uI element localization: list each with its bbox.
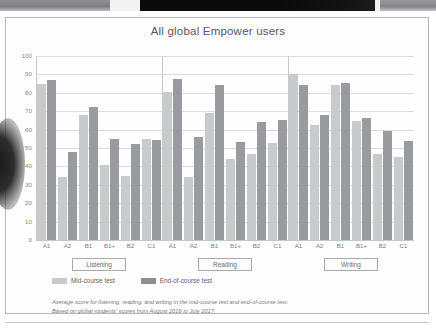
x-axis-tick-reading-b1: B1 <box>211 242 219 249</box>
x-axis-tick-listening-b2: B2 <box>127 242 135 249</box>
bar-writing-b2-end <box>383 131 392 240</box>
y-axis-tick-20: 20 <box>25 200 32 206</box>
scanner-top-strip <box>0 0 436 12</box>
scan-artifact-center-black <box>140 0 280 11</box>
gridline-90 <box>36 74 414 75</box>
bar-writing-a2-mid <box>310 125 319 240</box>
footnote-line-2: Based on global students' scores from Au… <box>52 307 382 316</box>
bar-reading-b2-mid <box>247 154 256 240</box>
bar-reading-b1-end <box>215 85 224 240</box>
x-axis-tick-listening-b1: B1 <box>85 242 93 249</box>
y-axis-tick-50: 50 <box>25 145 32 151</box>
bar-listening-a2-end <box>68 152 77 240</box>
y-axis-tick-60: 60 <box>25 126 32 132</box>
gridline-80 <box>36 93 414 94</box>
scan-artifact-left <box>0 0 110 11</box>
bar-reading-b1plus-mid <box>226 159 235 240</box>
x-axis-tick-writing-a1: A1 <box>295 242 303 249</box>
bar-listening-a1-end <box>47 80 56 240</box>
bar-listening-b1-end <box>89 107 98 240</box>
bar-listening-b2-mid <box>121 176 130 240</box>
x-axis-tick-listening-a1: A1 <box>43 242 51 249</box>
chart-legend: Mid-course test End-of-course test <box>52 278 212 284</box>
bar-reading-c1-end <box>278 120 287 240</box>
bar-listening-b1plus-end <box>110 139 119 240</box>
chart-footnote: Average score for listening, reading, an… <box>52 298 382 316</box>
bar-listening-b2-end <box>131 144 140 240</box>
bar-reading-b1-mid <box>205 113 214 240</box>
bar-listening-a2-mid <box>58 177 67 240</box>
x-axis-tick-writing-a2: A2 <box>316 242 324 249</box>
bar-writing-b1-end <box>341 83 350 240</box>
bar-reading-a2-mid <box>184 177 193 240</box>
chart-plot-area: 0102030405060708090100A1A2B1B1+B2C1A1A2B… <box>36 56 414 240</box>
skill-label-listening: Listening <box>72 258 126 271</box>
x-axis-tick-reading-a1: A1 <box>169 242 177 249</box>
x-axis-tick-writing-b1: B1 <box>337 242 345 249</box>
bar-listening-b1plus-mid <box>100 165 109 240</box>
x-axis-tick-writing-b1plus: B1+ <box>356 242 367 249</box>
y-axis-tick-10: 10 <box>25 218 32 224</box>
gridline-100 <box>36 56 414 57</box>
legend-swatch-mid-course <box>52 278 67 284</box>
x-axis-tick-reading-b2: B2 <box>253 242 261 249</box>
scan-artifact-gap-left <box>110 0 140 11</box>
bar-writing-c1-end <box>404 141 413 240</box>
bar-listening-b1-mid <box>79 115 88 240</box>
bar-reading-a1-mid <box>163 92 172 240</box>
legend-label-end-of-course: End-of-course test <box>160 278 212 284</box>
bar-writing-a1-end <box>299 85 308 240</box>
gridline-0 <box>36 240 414 241</box>
legend-swatch-end-of-course <box>141 278 156 284</box>
x-axis-tick-listening-b1plus: B1+ <box>104 242 115 249</box>
bar-writing-a1-mid <box>289 74 298 240</box>
legend-label-mid-course: Mid-course test <box>71 278 115 284</box>
page-bottom-rule <box>5 322 429 323</box>
chart-title: All global Empower users <box>0 25 436 37</box>
x-axis-tick-reading-b1plus: B1+ <box>230 242 241 249</box>
bar-listening-c1-end <box>152 140 161 240</box>
scan-artifact-right <box>380 0 436 11</box>
bar-reading-a1-end <box>173 79 182 240</box>
bar-listening-c1-mid <box>142 139 151 240</box>
legend-item-mid-course: Mid-course test <box>52 278 115 284</box>
x-axis-tick-reading-a2: A2 <box>190 242 198 249</box>
bar-writing-b1plus-end <box>362 118 371 240</box>
bar-writing-a2-end <box>320 115 329 240</box>
y-axis-tick-0: 0 <box>29 237 32 243</box>
legend-item-end-of-course: End-of-course test <box>141 278 212 284</box>
x-axis-tick-writing-c1: C1 <box>400 242 408 249</box>
bar-listening-a1-mid <box>37 84 46 240</box>
y-axis-tick-80: 80 <box>25 90 32 96</box>
bar-reading-c1-mid <box>268 143 277 240</box>
bar-reading-a2-end <box>194 137 203 240</box>
x-axis-tick-listening-a2: A2 <box>64 242 72 249</box>
bar-reading-b1plus-end <box>236 142 245 240</box>
x-axis-tick-reading-c1: C1 <box>274 242 282 249</box>
bar-writing-b2-mid <box>373 154 382 240</box>
bar-reading-b2-end <box>257 122 266 240</box>
scan-artifact-center-black-2 <box>280 0 375 11</box>
skill-label-reading: Reading <box>198 258 252 271</box>
y-axis-tick-70: 70 <box>25 108 32 114</box>
bar-writing-c1-mid <box>394 157 403 240</box>
y-axis-tick-30: 30 <box>25 182 32 188</box>
y-axis-tick-90: 90 <box>25 71 32 77</box>
bar-writing-b1plus-mid <box>352 121 361 240</box>
x-axis-tick-listening-c1: C1 <box>148 242 156 249</box>
bar-writing-b1-mid <box>331 85 340 240</box>
skill-label-writing: Writing <box>324 258 378 271</box>
x-axis-tick-writing-b2: B2 <box>379 242 387 249</box>
y-axis-tick-100: 100 <box>22 53 32 59</box>
footnote-line-1: Average score for listening, reading, an… <box>52 298 382 307</box>
y-axis-tick-40: 40 <box>25 163 32 169</box>
